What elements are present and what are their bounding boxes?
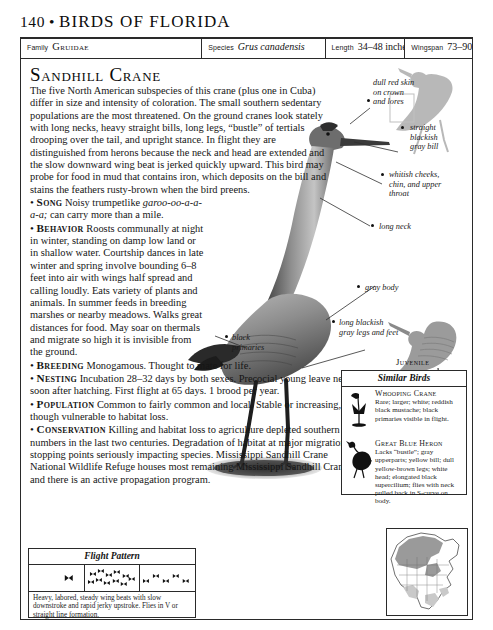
wingspan-value: 73–90 inches xyxy=(447,41,472,52)
flight-pattern-cells xyxy=(29,565,195,592)
book-title: BIRDS OF FLORIDA xyxy=(59,12,231,31)
flight-pattern-caption: Heavy, labored, steady wing beats with s… xyxy=(29,592,195,619)
similar-birds-box: Similar Birds Whooping Crane Rare; large… xyxy=(341,370,467,495)
bullet-behavior: • xyxy=(30,222,37,234)
song-heading: Song xyxy=(37,196,63,208)
family-cell: Family Gruidae xyxy=(21,39,202,58)
page-title: Sandhill Crane xyxy=(30,64,161,86)
callout-cheeks: whitish cheeks, chin, and upper throat xyxy=(389,170,441,199)
callout-dot-body xyxy=(357,285,360,288)
nesting-heading: Nesting xyxy=(37,372,77,384)
callout-primaries: black primaries xyxy=(232,333,264,352)
callout-dot-bill xyxy=(401,126,404,129)
north-america-map-icon xyxy=(387,529,467,615)
intro-paragraph: The five North American subspecies of th… xyxy=(30,85,330,196)
length-value: 34–48 inches xyxy=(358,41,406,52)
callout-dot-neck xyxy=(371,224,374,227)
breeding-heading: Breeding xyxy=(37,359,84,371)
section-breeding: • Breeding Monogamous. Thought to mate f… xyxy=(30,359,360,372)
similar-bird-text: Whooping Crane Rare; larger; white; redd… xyxy=(375,390,462,436)
species-account-text: The five North American subspecies of th… xyxy=(30,85,360,486)
callout-dot-primaries xyxy=(225,335,228,338)
nesting-text: Incubation 28–32 days by both sexes. Pre… xyxy=(30,373,350,396)
length-cell: Length 34–48 inches xyxy=(326,39,406,58)
similar-bird-name: Whooping Crane xyxy=(375,390,462,398)
bullet-nesting: • xyxy=(30,372,37,384)
bullet-song: • xyxy=(30,196,37,208)
song-text-before: Noisy trumpetlike xyxy=(65,197,140,208)
species-cell: Species Grus canadensis xyxy=(202,39,325,58)
bullet-conservation: • xyxy=(30,423,37,435)
conservation-heading: Conservation xyxy=(37,423,106,435)
callout-dot-legs xyxy=(332,320,335,323)
similar-birds-heading: Similar Birds xyxy=(342,371,466,387)
similar-birds-list: Whooping Crane Rare; larger; white; redd… xyxy=(342,387,466,506)
behavior-text: Roosts communally at night in winter, st… xyxy=(30,223,203,357)
header-separator: • xyxy=(49,13,55,30)
callout-crown: dull red skin on crown and lores xyxy=(373,78,414,107)
similar-bird-description: Lacks “bustle”; gray upperparts; yellow … xyxy=(375,448,454,505)
flight-cell-line xyxy=(140,565,195,591)
callout-bill: straight blackish gray bill xyxy=(410,123,438,152)
section-behavior: • Behavior Roosts communally at night in… xyxy=(30,222,205,359)
section-song: • Song Noisy trumpetlike garoo-oo-a-a-a-… xyxy=(30,196,205,222)
length-label: Length xyxy=(332,44,354,51)
behavior-heading: Behavior xyxy=(37,222,84,234)
family-value: Gruidae xyxy=(52,41,89,52)
bullet-breeding: • xyxy=(30,359,37,371)
callout-body: gray body xyxy=(365,283,398,293)
wingspan-label: Wingspan xyxy=(411,44,443,51)
family-label: Family xyxy=(27,44,48,51)
section-population: • Population Common to fairly common and… xyxy=(30,398,360,424)
population-heading: Population xyxy=(37,398,95,410)
flight-pattern-heading: Flight Pattern xyxy=(29,549,195,565)
page-header: 140•BIRDS OF FLORIDA xyxy=(20,12,231,32)
callout-neck: long neck xyxy=(379,222,411,232)
species-value: Grus canadensis xyxy=(238,41,305,52)
song-text-after: can carry more than a mile. xyxy=(50,209,164,220)
species-label: Species xyxy=(208,44,234,51)
callout-dot-crown xyxy=(367,99,370,102)
list-item: Whooping Crane Rare; larger; white; redd… xyxy=(346,390,462,436)
wingspan-cell: Wingspan 73–90 inches xyxy=(405,39,472,58)
similar-bird-description: Rare; larger; white; reddish black musta… xyxy=(375,398,453,422)
callout-legs: long blackish gray legs and feet xyxy=(339,318,398,337)
callout-dot-cheeks xyxy=(381,173,384,176)
great-blue-heron-icon xyxy=(346,440,372,506)
section-conservation-head: • Conservation Killing and habitat loss … xyxy=(30,423,360,486)
juvenile-label: Juvenile xyxy=(396,357,429,367)
page-number: 140 xyxy=(20,13,45,30)
flight-cell-flock xyxy=(85,565,141,591)
species-data-bar: Family Gruidae Species Grus canadensis L… xyxy=(20,38,473,59)
bullet-population: • xyxy=(30,398,37,410)
section-nesting: • Nesting Incubation 28–32 days by both … xyxy=(30,372,360,398)
flight-pattern-box: Flight Pattern xyxy=(28,548,196,618)
similar-bird-text: Great Blue Heron Lacks “bustle”; gray up… xyxy=(375,440,462,506)
flight-cell-single xyxy=(29,565,85,591)
range-map xyxy=(386,528,468,616)
list-item: Great Blue Heron Lacks “bustle”; gray up… xyxy=(346,440,462,506)
breeding-text: Monogamous. Thought to mate for life. xyxy=(86,360,251,371)
similar-bird-name: Great Blue Heron xyxy=(375,440,462,448)
whooping-crane-icon xyxy=(346,390,372,436)
